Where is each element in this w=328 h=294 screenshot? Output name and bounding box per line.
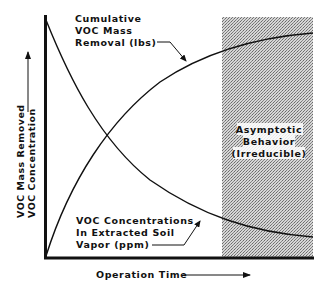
- concentration-label-line3: Vapor (ppm): [76, 239, 149, 250]
- region-label-line3: (Irreducible): [232, 148, 307, 159]
- diagram-canvas: Asymptotic Behavior (Irreducible) Cumula…: [0, 0, 328, 294]
- cumulative-label: Cumulative VOC Mass Removal (lbs): [75, 13, 157, 48]
- region-label-line1: Asymptotic: [236, 124, 302, 135]
- y-axis-label: VOC Mass Removed VOC Concentration: [15, 104, 37, 218]
- x-axis-label: Operation Time: [96, 269, 187, 280]
- cumulative-label-line2: VOC Mass: [75, 25, 133, 36]
- region-label-line2: Behavior: [243, 136, 295, 147]
- cumulative-label-line1: Cumulative: [75, 13, 142, 24]
- concentration-label-line1: VOC Concentrations: [76, 215, 194, 226]
- y-axis-label-line2: VOC Concentration: [26, 108, 37, 218]
- cumulative-leader-arrow: [157, 42, 186, 61]
- cumulative-label-line3: Removal (lbs): [75, 37, 157, 48]
- y-axis-label-line1: VOC Mass Removed: [15, 104, 26, 218]
- concentration-label-line2: In Extracted Soil: [76, 227, 175, 238]
